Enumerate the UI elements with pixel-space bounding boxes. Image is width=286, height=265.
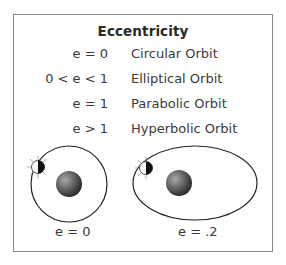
orbit-diagrams — [0, 0, 286, 265]
elliptical-orbit-path — [133, 146, 257, 220]
elliptical-orbit-caption: e = .2 — [178, 224, 218, 239]
circular-orbit-diagram — [27, 146, 107, 222]
planet-icon — [56, 171, 82, 197]
planet-icon — [166, 170, 192, 196]
satellite-icon — [135, 157, 153, 179]
circular-orbit-caption: e = 0 — [55, 224, 90, 239]
satellite-icon — [27, 156, 46, 178]
elliptical-orbit-diagram — [133, 146, 257, 220]
